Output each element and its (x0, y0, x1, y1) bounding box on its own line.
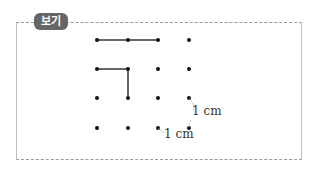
grid-dot (187, 38, 191, 42)
dot-grid-diagram (0, 0, 313, 173)
grid-dot (95, 96, 99, 100)
grid-dot (156, 67, 160, 71)
grid-dot (95, 67, 99, 71)
grid-dot (126, 67, 130, 71)
grid-dot (95, 38, 99, 42)
grid-dot (187, 67, 191, 71)
vertical-length-label: 1 cm (192, 104, 222, 118)
horizontal-length-label: 1 cm (164, 127, 194, 141)
grid-dot (156, 96, 160, 100)
grid-dot (126, 126, 130, 130)
grid-dot (95, 126, 99, 130)
grid-dot (156, 38, 160, 42)
grid-dot (126, 38, 130, 42)
grid-dot (126, 96, 130, 100)
